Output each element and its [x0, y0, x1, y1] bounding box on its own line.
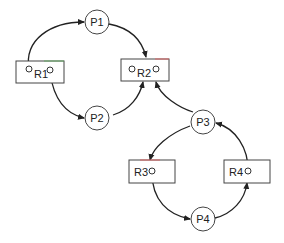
- instance-dot: [129, 66, 135, 72]
- process-p1[interactable]: P1: [85, 10, 109, 34]
- resource-r3[interactable]: R3: [129, 160, 175, 183]
- edge-p2-r2: [113, 82, 143, 115]
- edge-p4-r4: [215, 183, 247, 218]
- resource-r1[interactable]: R1: [16, 61, 64, 83]
- process-label: P4: [196, 213, 209, 225]
- edge-p3-r3: [150, 126, 190, 160]
- resource-label: R1: [34, 68, 48, 80]
- process-label: P2: [90, 112, 103, 124]
- resource-r4[interactable]: R4: [224, 160, 270, 183]
- instance-dot: [26, 66, 32, 72]
- process-p2[interactable]: P2: [85, 106, 109, 130]
- resource-allocation-graph: R1 R2 R3 R4 P1 P2 P3 P4: [0, 0, 284, 243]
- resource-label: R3: [134, 166, 148, 178]
- instance-dot: [245, 168, 251, 174]
- resource-label: R4: [229, 166, 243, 178]
- resource-label: R2: [137, 67, 151, 79]
- instance-dot: [149, 168, 155, 174]
- edge-p3-r2: [156, 82, 193, 112]
- resource-r2[interactable]: R2: [121, 59, 169, 81]
- instance-dot: [153, 66, 159, 72]
- process-p4[interactable]: P4: [191, 207, 215, 231]
- process-label: P1: [90, 16, 103, 28]
- edge-p1-r2: [109, 24, 146, 57]
- process-p3[interactable]: P3: [191, 110, 215, 134]
- process-label: P3: [196, 116, 209, 128]
